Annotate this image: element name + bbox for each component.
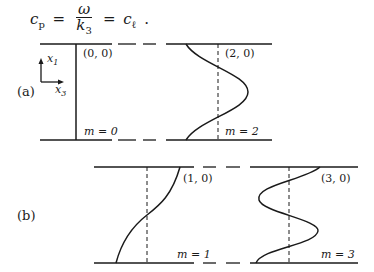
x3-sub: 3: [61, 89, 66, 98]
mode-1-index: (1, 0): [183, 172, 213, 185]
mode-0-index: (0, 0): [83, 47, 113, 60]
mode-0-m-label: m = 0: [84, 125, 118, 138]
mode-2-m-label: m = 2: [225, 125, 259, 138]
axis-x1-label: x1: [47, 52, 58, 67]
mode-2-index: (2, 0): [225, 47, 255, 60]
mode-3-index: (3, 0): [321, 172, 351, 185]
plate-lines-b: [94, 167, 358, 263]
mode-shapes-figure: [0, 0, 374, 272]
axis-x3-label: x3: [55, 83, 66, 98]
mode-3-m-label: m = 3: [321, 248, 355, 261]
mode-3-curve: [256, 167, 320, 263]
mode-1-curve: [116, 167, 180, 263]
part-a-label: (a): [17, 84, 35, 99]
mode-1-m-label: m = 1: [177, 248, 211, 261]
x1-sub: 1: [53, 58, 58, 67]
part-b-label: (b): [17, 208, 35, 223]
